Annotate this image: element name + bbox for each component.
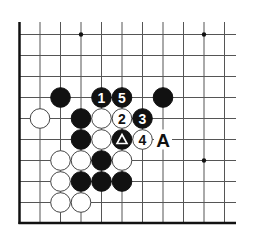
stone-circle <box>30 109 50 129</box>
move-number: 3 <box>139 111 147 127</box>
stone-circle <box>71 193 91 213</box>
black-stone <box>92 151 112 171</box>
point-labels: A <box>154 130 172 151</box>
white-stone <box>112 151 132 171</box>
white-stone <box>51 193 71 213</box>
white-stone-2: 2 <box>112 109 132 129</box>
white-stone <box>71 151 91 171</box>
white-stone <box>51 172 71 192</box>
black-stone <box>153 88 173 108</box>
black-stone-1: 1 <box>92 88 112 108</box>
go-board-diagram: A 15234 <box>0 0 254 242</box>
stone-circle <box>92 151 112 171</box>
black-stone <box>71 172 91 192</box>
stone-circle <box>51 172 71 192</box>
move-number: 2 <box>118 111 126 127</box>
move-number: 4 <box>139 132 147 148</box>
stone-circle <box>92 172 112 192</box>
stone-circle <box>92 109 112 129</box>
white-stone-4: 4 <box>133 130 153 150</box>
stone-circle <box>92 130 112 150</box>
white-stone <box>30 109 50 129</box>
black-stone <box>71 130 91 150</box>
white-stone <box>92 109 112 129</box>
stone-circle <box>112 151 132 171</box>
white-stone <box>51 151 71 171</box>
stone-circle <box>112 130 132 150</box>
stone-circle <box>112 172 132 192</box>
black-stone <box>112 130 132 150</box>
black-stone <box>92 172 112 192</box>
stone-circle <box>71 130 91 150</box>
stone-circle <box>153 88 173 108</box>
stone-circle <box>51 151 71 171</box>
stone-circle <box>71 109 91 129</box>
black-stone-5: 5 <box>112 88 132 108</box>
stone-circle <box>71 172 91 192</box>
white-stone <box>71 193 91 213</box>
black-stone-3: 3 <box>133 109 153 129</box>
black-stone <box>71 109 91 129</box>
star-point <box>79 32 83 36</box>
point-label-a: A <box>156 130 170 151</box>
stone-circle <box>51 193 71 213</box>
black-stone <box>51 88 71 108</box>
star-point <box>202 158 206 162</box>
star-point <box>202 32 206 36</box>
move-number: 5 <box>118 90 126 106</box>
black-stone <box>112 172 132 192</box>
stone-circle <box>51 88 71 108</box>
stone-circle <box>71 151 91 171</box>
white-stone <box>92 130 112 150</box>
move-number: 1 <box>98 90 106 106</box>
